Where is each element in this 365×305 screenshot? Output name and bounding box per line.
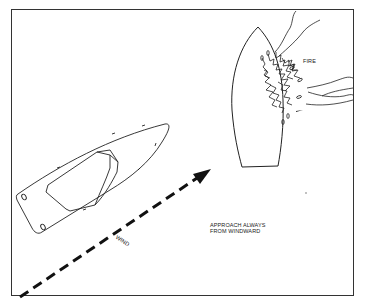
arrowhead-icon xyxy=(193,169,211,184)
approach-instruction: APPROACH ALWAYS FROM WINDWARD xyxy=(210,222,266,234)
ember-icon xyxy=(296,110,303,112)
diagram-canvas xyxy=(0,0,365,305)
wind-arrow xyxy=(20,169,211,297)
burning-boat xyxy=(232,27,283,167)
fire-icon xyxy=(261,51,303,125)
approach-line-2: FROM WINDWARD xyxy=(210,228,266,234)
rescue-boat xyxy=(16,124,169,233)
speck xyxy=(305,192,306,193)
fire-label: FIRE xyxy=(303,58,316,64)
